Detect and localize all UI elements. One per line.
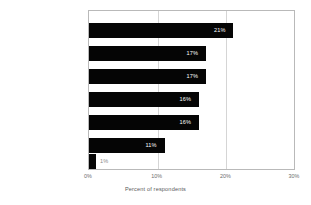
bar-value-label: 11% bbox=[146, 139, 157, 152]
bar-row: 16% Impact group adjustments bbox=[89, 92, 294, 107]
x-tick-label: 10% bbox=[151, 173, 162, 179]
bar-row: 11% Sponsor assignment bbox=[89, 138, 294, 153]
x-axis-title: Percent of respondents bbox=[0, 186, 311, 192]
bar-value-label: 17% bbox=[187, 70, 199, 83]
bar-value-label: 21% bbox=[214, 24, 226, 37]
plot-area: 21% Strategic alignment 17% Milestone ti… bbox=[88, 10, 295, 170]
bar-row: 16% Project selection bbox=[89, 115, 294, 130]
bar-value-label: 1% bbox=[100, 155, 108, 168]
bar bbox=[89, 154, 96, 169]
bar-row: 17% Resource decisions bbox=[89, 69, 294, 84]
bar-chart: 21% Strategic alignment 17% Milestone ti… bbox=[0, 0, 311, 205]
x-tick-label: 30% bbox=[289, 173, 300, 179]
bar-row: 17% Milestone timing bbox=[89, 46, 294, 61]
bar-value-label: 17% bbox=[187, 47, 199, 60]
bar-value-label: 16% bbox=[180, 93, 192, 106]
x-axis-ticks: 0% 10% 20% 30% bbox=[0, 173, 311, 183]
x-tick-label: 20% bbox=[220, 173, 231, 179]
x-tick-label: 0% bbox=[84, 173, 92, 179]
bar-value-label: 16% bbox=[180, 116, 192, 129]
bar bbox=[89, 23, 233, 38]
bar-row: 21% Strategic alignment bbox=[89, 23, 294, 38]
bar-row: 1% Other bbox=[89, 154, 294, 169]
bars-layer: 21% Strategic alignment 17% Milestone ti… bbox=[89, 11, 294, 169]
